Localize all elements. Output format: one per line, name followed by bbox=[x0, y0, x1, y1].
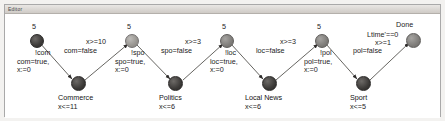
transition-assign-loc-2: x:=0 bbox=[210, 66, 224, 74]
transition-assign-loc-false: loc=false bbox=[256, 47, 285, 55]
window-titlebar[interactable]: Editor bbox=[5, 5, 440, 14]
clock-bound-3: 5 bbox=[222, 23, 226, 31]
state-node-sport[interactable] bbox=[356, 76, 371, 91]
clock-bound-4: 5 bbox=[317, 23, 321, 31]
transition-assign-spo-2: x:=0 bbox=[115, 66, 129, 74]
clock-bound-1: 5 bbox=[32, 23, 36, 31]
state-invariant-politics: x<=6 bbox=[159, 103, 175, 111]
state-node-localnews-top[interactable] bbox=[315, 34, 329, 48]
state-invariant-commerce: x<=11 bbox=[58, 103, 77, 111]
state-invariant-localnews: x<=6 bbox=[245, 103, 261, 111]
transition-assign-com-false: com=false bbox=[64, 47, 97, 55]
state-node-start[interactable] bbox=[30, 34, 44, 48]
transition-assign-pol-2: x:=0 bbox=[304, 66, 318, 74]
state-node-localnews[interactable] bbox=[262, 76, 277, 91]
transition-assign-spo-false: spo=false bbox=[161, 47, 192, 55]
state-node-politics-top[interactable] bbox=[220, 34, 234, 48]
diagram-canvas[interactable]: 5 5 5 5 Done !com com=true, x:=0 !spo sp… bbox=[5, 14, 440, 118]
window-title: Editor bbox=[8, 5, 22, 14]
screenshot-root: Editor bbox=[0, 0, 445, 121]
state-node-done[interactable] bbox=[406, 33, 421, 48]
transition-assign-com-2: x:=0 bbox=[17, 66, 31, 74]
state-node-commerce[interactable] bbox=[71, 76, 86, 91]
clock-bound-2: 5 bbox=[127, 23, 131, 31]
final-state-label: Done bbox=[396, 21, 413, 29]
state-invariant-sport: x<=5 bbox=[350, 103, 366, 111]
state-node-commerce-top[interactable] bbox=[125, 34, 139, 48]
editor-window: Editor bbox=[4, 4, 441, 117]
transition-assign-pol-false: pol=false bbox=[353, 47, 382, 55]
state-node-politics[interactable] bbox=[168, 76, 183, 91]
